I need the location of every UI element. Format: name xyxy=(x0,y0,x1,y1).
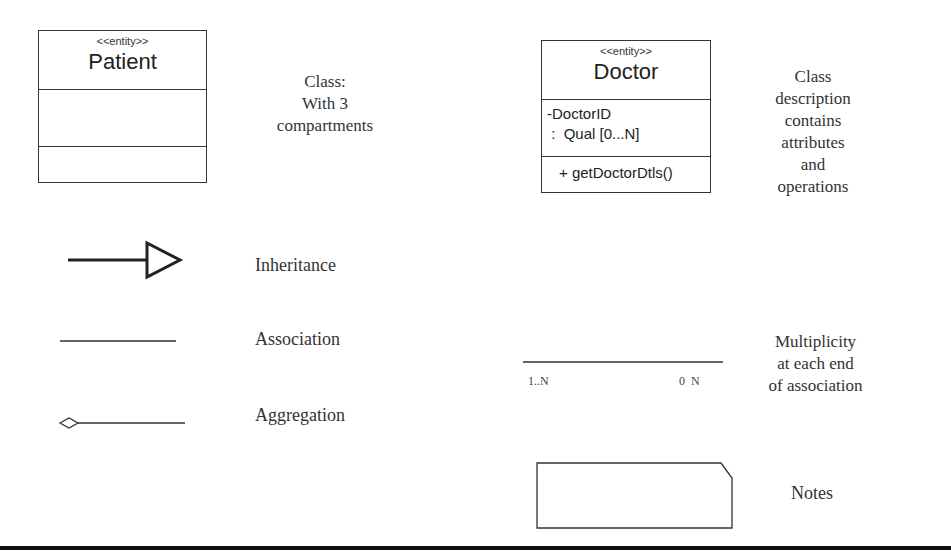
patient-class-description: Class: With 3 compartments xyxy=(240,71,410,137)
patient-operations-compartment xyxy=(39,146,206,182)
doctor-class-name: Doctor xyxy=(542,59,710,85)
description-line: operations xyxy=(748,176,878,198)
description-line: contains xyxy=(748,110,878,132)
description-line: Multiplicity xyxy=(738,331,893,353)
bottom-divider xyxy=(0,546,951,550)
patient-attributes-compartment xyxy=(39,89,206,146)
description-line: compartments xyxy=(240,115,410,137)
doctor-attributes-compartment: -DoctorID : Qual [0...N] xyxy=(542,99,710,156)
aggregation-label: Aggregation xyxy=(255,405,345,426)
description-line: Class: xyxy=(240,71,410,93)
doctor-attribute: : Qual [0...N] xyxy=(547,125,640,142)
doctor-operation: + getDoctorDtls() xyxy=(559,164,673,181)
note-shape-icon xyxy=(534,460,739,532)
description-line: description xyxy=(748,88,878,110)
doctor-stereotype: <<entity>> xyxy=(542,45,710,57)
description-line: Class xyxy=(748,66,878,88)
description-line: at each end xyxy=(738,353,893,375)
association-line-icon xyxy=(55,335,185,347)
doctor-attribute: -DoctorID xyxy=(547,105,611,122)
multiplicity-association-line-icon xyxy=(520,358,730,366)
aggregation-diamond-icon xyxy=(55,415,190,431)
description-line: and xyxy=(748,154,878,176)
inheritance-label: Inheritance xyxy=(255,255,336,276)
patient-name-compartment: <<entity>> Patient xyxy=(39,31,206,90)
multiplicity-right-label: 0 N xyxy=(679,374,700,389)
inheritance-arrow-icon xyxy=(60,238,190,288)
association-label: Association xyxy=(255,329,340,350)
doctor-operations-compartment: + getDoctorDtls() xyxy=(542,156,710,192)
multiplicity-description: Multiplicity at each end of association xyxy=(738,331,893,397)
multiplicity-left-label: 1..N xyxy=(528,374,549,389)
patient-class-box: <<entity>> Patient xyxy=(38,30,207,183)
notes-label: Notes xyxy=(791,483,833,504)
description-line: of association xyxy=(738,375,893,397)
doctor-class-description: Class description contains attributes an… xyxy=(748,66,878,198)
description-line: attributes xyxy=(748,132,878,154)
doctor-name-compartment: <<entity>> Doctor xyxy=(542,41,710,100)
description-line: With 3 xyxy=(240,93,410,115)
patient-stereotype: <<entity>> xyxy=(39,35,206,47)
doctor-class-box: <<entity>> Doctor -DoctorID : Qual [0...… xyxy=(541,40,711,193)
patient-class-name: Patient xyxy=(39,49,206,75)
